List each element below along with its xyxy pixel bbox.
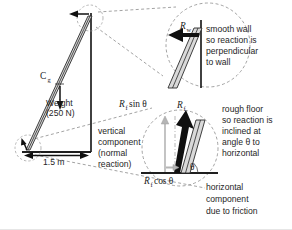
vertical-component-label: R f sin θ (118, 99, 147, 111)
wall-note-line4: to wall (206, 57, 230, 67)
normal-note-line2: component (98, 137, 141, 147)
horizontal-component-function: cos θ (154, 176, 174, 186)
vertical-component-symbol: R (118, 99, 125, 109)
friction-note-line2: component (206, 194, 249, 204)
floor-note-line3: inclined at (222, 126, 261, 136)
vertical-component-arrow (161, 116, 169, 172)
base-distance-label: 1.5 m (43, 157, 65, 167)
cg-label-sub: g (48, 76, 52, 83)
wall-note-line2: so reaction is (206, 35, 257, 45)
friction-note: horizontal component due to friction (206, 182, 258, 216)
floor-note-line2: so reaction is (222, 115, 273, 125)
horizontal-component-label: R f cos θ (143, 176, 174, 188)
vertical-component-function: sin θ (129, 99, 147, 109)
weight-label-line1: Weight (46, 98, 73, 108)
resultant-symbol: R (176, 100, 183, 110)
normal-note-line3: (normal (98, 148, 127, 158)
floor-note-line1: rough floor (222, 104, 263, 114)
ladder-rail (28, 16, 90, 150)
floor-callout: θ R f R f sin θ R f cos θ rough floor so… (118, 99, 273, 216)
floor-note-line5: horizontal (222, 148, 259, 158)
wall-note-line1: smooth wall (206, 24, 251, 34)
cg-label: C g (40, 71, 52, 83)
wall-reaction-subscript: w (187, 26, 192, 33)
wall-note-line3: perpendicular (206, 46, 258, 56)
horizontal-component-symbol: R (143, 176, 150, 186)
normal-note-line4: reaction) (98, 159, 132, 169)
weight-label-line2: (250 N) (46, 108, 75, 118)
ladder-forces-figure: C g Weight (250 N) 1.5 m vertical compon… (0, 0, 292, 230)
smooth-wall-note: smooth wall so reaction is perpendicular… (206, 24, 258, 67)
floor-reaction-arrow-main (21, 138, 27, 150)
wall-reaction-label: R w (179, 21, 192, 33)
friction-note-line1: horizontal (206, 182, 243, 192)
normal-reaction-note: vertical component (normal reaction) (98, 126, 141, 169)
resultant-label: R f (176, 100, 187, 112)
rough-floor-note: rough floor so reaction is inclined at a… (222, 104, 273, 158)
floor-note-line4: angle θ to (222, 137, 260, 147)
wall-reaction-symbol: R (179, 21, 186, 31)
normal-note-line1: vertical (98, 126, 125, 136)
cg-label-text: C (40, 71, 46, 81)
main-diagram: C g Weight (250 N) 1.5 m vertical compon… (15, 5, 141, 169)
friction-note-line3: due to friction (206, 206, 258, 216)
angle-label: θ (190, 162, 195, 172)
wall-callout: R w smooth wall so reaction is perpendic… (166, 3, 258, 88)
wall-reaction-arrow-main (69, 11, 89, 18)
